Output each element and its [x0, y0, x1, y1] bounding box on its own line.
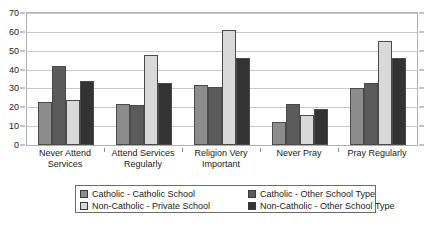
x-tick-label-line: Regularly	[104, 159, 182, 170]
bar[interactable]	[38, 102, 52, 145]
y-tick-mark-30	[20, 88, 25, 89]
y-tick-mark-0	[20, 145, 25, 146]
y-tick-label-50: 50	[9, 46, 19, 55]
legend-label: Catholic - Catholic School	[92, 190, 195, 199]
x-tick-label-line: Never Pray	[260, 148, 338, 159]
y-tick-mark-50	[20, 50, 25, 51]
bar[interactable]	[378, 41, 392, 145]
bar[interactable]	[392, 58, 406, 145]
legend: Catholic - Catholic SchoolCatholic - Oth…	[75, 185, 376, 213]
grouped-bar-chart: 010203040506070 Never AttendServicesAtte…	[0, 0, 436, 228]
legend-label: Catholic - Other School Type	[260, 190, 375, 199]
x-tick-label: Pray Regularly	[338, 148, 416, 159]
bar-group	[27, 13, 105, 145]
bar[interactable]	[300, 115, 314, 145]
bar-group	[261, 13, 339, 145]
x-tick-label: Religion VeryImportant	[182, 148, 260, 170]
right-tick-mark-30	[419, 88, 424, 89]
bar[interactable]	[52, 66, 66, 145]
bar-group	[105, 13, 183, 145]
y-tick-mark-70	[20, 13, 25, 14]
legend-item[interactable]: Catholic - Other School Type	[248, 190, 373, 199]
legend-label: Non-Catholic - Other School Type	[260, 202, 394, 211]
legend-items: Catholic - Catholic SchoolCatholic - Oth…	[80, 188, 373, 212]
y-tick-label-10: 10	[9, 122, 19, 131]
x-axis: Never AttendServicesAttend ServicesRegul…	[26, 148, 418, 182]
x-tick-label: Attend ServicesRegularly	[104, 148, 182, 170]
legend-item[interactable]: Non-Catholic - Private School	[80, 202, 248, 211]
x-tick-label-line: Attend Services	[104, 148, 182, 159]
y-tick-label-0: 0	[14, 141, 19, 150]
bar[interactable]	[364, 83, 378, 145]
bar[interactable]	[130, 105, 144, 145]
x-tick-label-line: Services	[26, 159, 104, 170]
x-tick-label-line: Important	[182, 159, 260, 170]
legend-label: Non-Catholic - Private School	[92, 202, 210, 211]
bar[interactable]	[272, 122, 286, 145]
legend-item[interactable]: Non-Catholic - Other School Type	[248, 202, 373, 211]
bar[interactable]	[222, 30, 236, 145]
x-tick-label-line: Religion Very	[182, 148, 260, 159]
legend-swatch-icon	[248, 190, 256, 198]
y-tick-label-20: 20	[9, 103, 19, 112]
bar[interactable]	[80, 81, 94, 145]
right-tick-mark-60	[419, 31, 424, 32]
bar-group	[183, 13, 261, 145]
bar[interactable]	[314, 109, 328, 145]
bar[interactable]	[116, 104, 130, 145]
y-tick-label-60: 60	[9, 27, 19, 36]
bar-group	[339, 13, 417, 145]
x-tick-label-line: Pray Regularly	[338, 148, 416, 159]
x-tick-label: Never Pray	[260, 148, 338, 159]
right-tick-mark-10	[419, 126, 424, 127]
y-tick-mark-60	[20, 31, 25, 32]
right-tick-mark-20	[419, 107, 424, 108]
right-tick-mark-0	[419, 145, 424, 146]
y-tick-mark-10	[20, 126, 25, 127]
legend-swatch-icon	[80, 190, 88, 198]
x-tick-label-line: Never Attend	[26, 148, 104, 159]
bar[interactable]	[66, 100, 80, 145]
bar[interactable]	[350, 88, 364, 145]
x-tick-mark	[338, 148, 339, 152]
y-tick-mark-20	[20, 107, 25, 108]
x-tick-mark	[182, 148, 183, 152]
bar[interactable]	[286, 104, 300, 145]
x-tick-mark	[104, 148, 105, 152]
bar[interactable]	[144, 55, 158, 146]
bar[interactable]	[208, 87, 222, 145]
legend-item[interactable]: Catholic - Catholic School	[80, 190, 248, 199]
legend-swatch-icon	[248, 202, 256, 210]
right-tick-mark-70	[419, 13, 424, 14]
y-tick-mark-40	[20, 69, 25, 70]
bars-layer	[27, 13, 417, 145]
right-tick-mark-40	[419, 69, 424, 70]
x-tick-mark	[260, 148, 261, 152]
bar[interactable]	[158, 83, 172, 145]
y-tick-label-70: 70	[9, 9, 19, 18]
bar[interactable]	[194, 85, 208, 145]
right-tick-mark-50	[419, 50, 424, 51]
y-axis: 010203040506070	[0, 0, 26, 148]
bar[interactable]	[236, 58, 250, 145]
x-tick-label: Never AttendServices	[26, 148, 104, 170]
y-tick-label-40: 40	[9, 65, 19, 74]
legend-swatch-icon	[80, 202, 88, 210]
y-tick-label-30: 30	[9, 84, 19, 93]
